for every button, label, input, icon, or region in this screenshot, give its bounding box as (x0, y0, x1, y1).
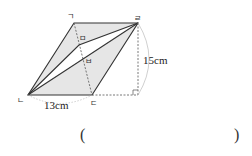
label-point-m: ㅁ (79, 34, 86, 43)
answer-close-paren: ) (234, 126, 239, 144)
label-vertex-d: ㄷ (90, 99, 97, 108)
height-measurement: 15cm (143, 54, 168, 66)
answer-blank[interactable] (92, 128, 230, 146)
right-angle-mark (133, 90, 138, 95)
base-measurement: 13cm (44, 99, 69, 111)
label-vertex-g: ㄱ (67, 12, 74, 21)
label-vertex-r: ㄹ (134, 14, 141, 23)
label-vertex-n: ㄴ (17, 96, 24, 105)
label-point-b: ㅂ (85, 57, 92, 66)
answer-open-paren: ( (80, 126, 85, 144)
